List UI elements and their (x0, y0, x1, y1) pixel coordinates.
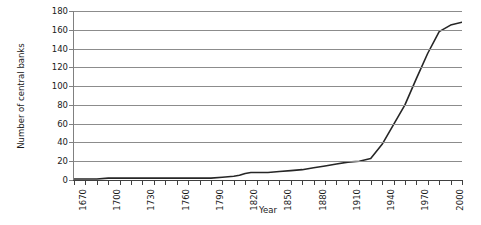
gridline-y-120 (74, 67, 462, 68)
x-tick-1900 (336, 181, 337, 185)
y-tick-160 (69, 30, 73, 31)
x-tick-1810 (234, 181, 235, 185)
gridline-y-80 (74, 105, 462, 106)
y-tick-0 (69, 180, 73, 181)
x-tick-1860 (291, 181, 292, 185)
x-tick-1980 (428, 181, 429, 185)
y-axis-tick-labels: 020406080100120140160180 (0, 0, 68, 225)
x-tick-1830 (257, 181, 258, 185)
y-tick-label-text: 160 (52, 26, 68, 35)
y-tick-label-text: 40 (57, 138, 68, 147)
x-tick-1730 (142, 181, 143, 185)
x-tick-1890 (325, 181, 326, 185)
y-tick-label-text: 120 (52, 63, 68, 72)
y-tick-label-text: 0 (63, 176, 68, 185)
x-tick-1780 (200, 181, 201, 185)
x-tick-1680 (85, 181, 86, 185)
gridline-y-160 (74, 30, 462, 31)
gridline-y-40 (74, 142, 462, 143)
y-tick-label-text: 60 (57, 119, 68, 128)
chart-container: 020406080100120140160180 Number of centr… (0, 0, 481, 225)
gridline-y-60 (74, 124, 462, 125)
x-tick-1920 (359, 181, 360, 185)
y-tick-60 (69, 124, 73, 125)
y-tick-label-text: 100 (52, 82, 68, 91)
x-tick-1800 (222, 181, 223, 185)
x-tick-1930 (371, 181, 372, 185)
x-tick-1840 (268, 181, 269, 185)
x-tick-1910 (348, 181, 349, 185)
x-tick-1970 (416, 181, 417, 185)
x-tick-1710 (120, 181, 121, 185)
x-tick-1870 (302, 181, 303, 185)
y-tick-120 (69, 67, 73, 68)
y-axis-title: Number of central banks (14, 11, 28, 181)
x-tick-1770 (188, 181, 189, 185)
y-tick-100 (69, 86, 73, 87)
line-series-central-banks (74, 22, 462, 179)
gridline-y-180 (74, 11, 462, 12)
x-tick-1950 (394, 181, 395, 185)
y-tick-40 (69, 142, 73, 143)
x-tick-1880 (314, 181, 315, 185)
x-tick-1790 (211, 181, 212, 185)
x-tick-1720 (131, 181, 132, 185)
y-tick-label-text: 180 (52, 7, 68, 16)
gridline-y-100 (74, 86, 462, 87)
x-tick-1740 (154, 181, 155, 185)
x-tick-1670 (74, 181, 75, 185)
y-tick-label-text: 20 (57, 157, 68, 166)
x-tick-1940 (382, 181, 383, 185)
x-tick-2010 (462, 181, 463, 185)
x-tick-1690 (97, 181, 98, 185)
x-tick-1700 (108, 181, 109, 185)
y-tick-180 (69, 11, 73, 12)
x-tick-1760 (177, 181, 178, 185)
y-tick-140 (69, 49, 73, 50)
y-tick-20 (69, 161, 73, 162)
plot-area (74, 11, 462, 180)
y-tick-80 (69, 105, 73, 106)
gridline-y-140 (74, 49, 462, 50)
x-tick-1990 (439, 181, 440, 185)
x-tick-2000 (451, 181, 452, 185)
x-axis-title: Year (74, 205, 462, 215)
y-tick-label-text: 140 (52, 44, 68, 53)
x-tick-1960 (405, 181, 406, 185)
x-tick-1820 (245, 181, 246, 185)
x-tick-1850 (279, 181, 280, 185)
y-tick-label-text: 80 (57, 101, 68, 110)
series-svg (74, 11, 462, 180)
gridline-y-20 (74, 161, 462, 162)
x-tick-1750 (165, 181, 166, 185)
